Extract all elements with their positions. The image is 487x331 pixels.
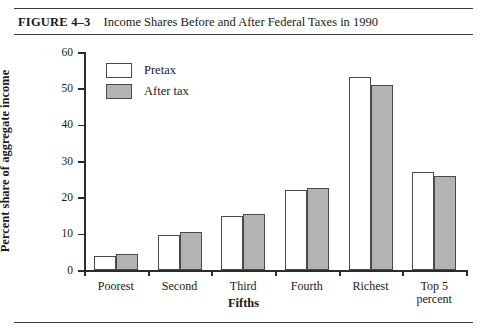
bar-pretax-second xyxy=(158,235,180,270)
x-category-label-fourth: Fourth xyxy=(275,280,339,293)
y-tick-10: 10 xyxy=(78,234,84,236)
y-tick-label-30: 30 xyxy=(62,156,74,168)
bar-after-tax-second xyxy=(180,232,202,270)
bar-pretax-fourth xyxy=(285,190,307,270)
caption-rule-under xyxy=(14,34,473,35)
x-category-label-second: Second xyxy=(148,280,212,293)
x-tick-0 xyxy=(84,270,86,276)
bar-pretax-top-5-percent xyxy=(412,172,434,270)
y-tick-label-0: 0 xyxy=(67,265,73,277)
figure-container: FIGURE 4–3 Income Shares Before and Afte… xyxy=(0,0,487,331)
bar-after-tax-third xyxy=(243,214,265,270)
x-tick-4 xyxy=(339,270,341,276)
y-tick-label-20: 20 xyxy=(62,192,74,204)
bar-after-tax-richest xyxy=(371,85,393,270)
y-tick-label-50: 50 xyxy=(62,83,74,95)
y-tick-60: 60 xyxy=(78,52,84,54)
bar-pretax-richest xyxy=(349,77,371,270)
x-tick-3 xyxy=(275,270,277,276)
x-tick-2 xyxy=(211,270,213,276)
legend-label-pretax: Pretax xyxy=(144,63,176,78)
x-category-label-top-5-percent: Top 5 percent xyxy=(402,280,466,306)
y-tick-label-10: 10 xyxy=(62,229,74,241)
figure-title: Income Shares Before and After Federal T… xyxy=(104,15,379,30)
bar-pretax-third xyxy=(221,216,243,271)
y-tick-label-40: 40 xyxy=(62,120,74,132)
y-tick-40: 40 xyxy=(78,125,84,127)
x-tick-6 xyxy=(466,270,468,276)
legend-item-pretax: Pretax xyxy=(106,61,189,80)
y-axis-title: Percent share of aggregate income xyxy=(0,48,13,274)
chart-legend: Pretax After tax xyxy=(106,61,189,103)
y-tick-20: 20 xyxy=(78,197,84,199)
legend-label-aftertax: After tax xyxy=(144,84,189,99)
legend-swatch-pretax xyxy=(106,63,132,78)
legend-swatch-aftertax xyxy=(106,84,132,99)
legend-item-aftertax: After tax xyxy=(106,82,189,101)
caption-rule-top xyxy=(14,8,473,9)
bar-after-tax-fourth xyxy=(307,188,329,270)
x-tick-5 xyxy=(402,270,404,276)
y-tick-50: 50 xyxy=(78,88,84,90)
figure-caption: FIGURE 4–3 Income Shares Before and Afte… xyxy=(18,13,378,32)
figure-rule-bottom xyxy=(14,322,473,323)
bar-pretax-poorest xyxy=(94,256,116,270)
x-category-label-poorest: Poorest xyxy=(84,280,148,293)
bar-after-tax-top-5-percent xyxy=(434,176,456,270)
y-tick-30: 30 xyxy=(78,161,84,163)
y-axis-line xyxy=(84,52,86,270)
bar-after-tax-poorest xyxy=(116,254,138,270)
figure-number-label: FIGURE 4–3 xyxy=(18,15,91,30)
x-category-label-richest: Richest xyxy=(339,280,403,293)
y-tick-label-60: 60 xyxy=(62,47,74,59)
x-category-label-third: Third xyxy=(211,280,275,293)
x-tick-1 xyxy=(148,270,150,276)
